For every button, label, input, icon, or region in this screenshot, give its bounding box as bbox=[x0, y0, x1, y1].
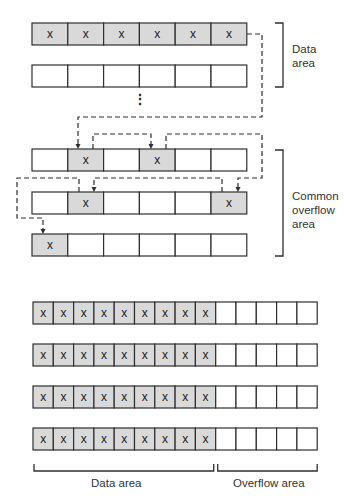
top-row-2-cell bbox=[104, 65, 140, 87]
svg-text:x: x bbox=[162, 348, 168, 362]
bottom-row-2-cell bbox=[216, 344, 236, 366]
svg-text:x: x bbox=[81, 432, 87, 446]
bottom-row-1-cell: x bbox=[175, 302, 195, 324]
svg-text:x: x bbox=[162, 390, 168, 404]
bottom-row-2-cell: x bbox=[135, 344, 155, 366]
top-row-4-cell bbox=[104, 192, 140, 214]
svg-text:x: x bbox=[81, 306, 87, 320]
bottom-row-2-cell bbox=[277, 344, 297, 366]
top-row-1-cell: x bbox=[68, 23, 104, 45]
bottom-row-4-cell bbox=[277, 428, 297, 450]
arrowhead-icon bbox=[149, 144, 154, 149]
bottom-row-3-cell: x bbox=[74, 386, 94, 408]
top-row-2-cell bbox=[139, 65, 175, 87]
svg-text:x: x bbox=[83, 153, 89, 167]
bottom-row-1-cell bbox=[216, 302, 236, 324]
bottom-row-1-cell: x bbox=[33, 302, 53, 324]
bottom-row-3-cell bbox=[216, 386, 236, 408]
svg-text:x: x bbox=[40, 348, 46, 362]
svg-text:x: x bbox=[182, 432, 188, 446]
arrowhead-icon bbox=[41, 229, 46, 234]
top-row-4-cell: x bbox=[211, 192, 247, 214]
bottom-row-3-cell: x bbox=[114, 386, 134, 408]
svg-text:x: x bbox=[119, 27, 125, 41]
arrowhead-icon bbox=[76, 144, 81, 149]
bottom-row-2-cell bbox=[236, 344, 256, 366]
svg-text:x: x bbox=[142, 306, 148, 320]
bottom-row-3-cell bbox=[236, 386, 256, 408]
svg-text:x: x bbox=[226, 196, 232, 210]
bottom-row-4-cell: x bbox=[53, 428, 73, 450]
svg-text:x: x bbox=[47, 238, 53, 252]
bracket-data-area bbox=[275, 23, 283, 87]
top-row-5-cell bbox=[175, 234, 211, 256]
svg-text:x: x bbox=[121, 306, 127, 320]
svg-text:x: x bbox=[142, 348, 148, 362]
svg-text:x: x bbox=[203, 348, 209, 362]
bottom-row-4-cell: x bbox=[195, 428, 215, 450]
svg-text:x: x bbox=[121, 348, 127, 362]
top-row-4-cell bbox=[175, 192, 211, 214]
top-row-3-cell bbox=[104, 149, 140, 171]
svg-text:x: x bbox=[182, 306, 188, 320]
top-row-2-cell bbox=[32, 65, 68, 87]
top-row-2-cell bbox=[68, 65, 104, 87]
bottom-row-2-cell bbox=[256, 344, 276, 366]
top-row-3-cell bbox=[175, 149, 211, 171]
svg-text:x: x bbox=[47, 27, 53, 41]
pointer-chain-3 bbox=[94, 178, 222, 192]
label-line: Data bbox=[292, 42, 316, 56]
pointer-chain-1 bbox=[93, 134, 151, 149]
bottom-row-1-cell: x bbox=[74, 302, 94, 324]
bottom-row-4-cell bbox=[216, 428, 236, 450]
svg-text:x: x bbox=[60, 306, 66, 320]
bottom-row-2-cell: x bbox=[53, 344, 73, 366]
svg-text:x: x bbox=[60, 348, 66, 362]
ellipsis-icon: ⋮ bbox=[133, 91, 147, 107]
svg-text:x: x bbox=[81, 390, 87, 404]
bottom-row-2-cell bbox=[297, 344, 317, 366]
top-row-3-cell: x bbox=[68, 149, 104, 171]
top-row-5-cell: x bbox=[32, 234, 68, 256]
label-line: overflow bbox=[292, 203, 339, 217]
svg-text:x: x bbox=[190, 27, 196, 41]
bottom-row-4-cell: x bbox=[175, 428, 195, 450]
top-row-2-cell bbox=[175, 65, 211, 87]
svg-text:x: x bbox=[101, 390, 107, 404]
svg-text:x: x bbox=[162, 432, 168, 446]
bottom-row-1-cell: x bbox=[94, 302, 114, 324]
svg-text:x: x bbox=[203, 390, 209, 404]
svg-text:x: x bbox=[101, 348, 107, 362]
label-data-area-top: Data area bbox=[292, 42, 316, 70]
bracket-common-overflow-area bbox=[275, 150, 283, 256]
top-row-4-cell bbox=[32, 192, 68, 214]
svg-text:x: x bbox=[162, 306, 168, 320]
bottom-row-3-cell: x bbox=[195, 386, 215, 408]
bottom-row-3-cell: x bbox=[175, 386, 195, 408]
top-row-1-cell: x bbox=[175, 23, 211, 45]
bottom-row-1-cell bbox=[236, 302, 256, 324]
svg-text:x: x bbox=[101, 306, 107, 320]
bottom-row-1-cell: x bbox=[195, 302, 215, 324]
bottom-row-3-cell: x bbox=[53, 386, 73, 408]
label-line: area bbox=[292, 56, 316, 70]
svg-text:x: x bbox=[40, 432, 46, 446]
svg-text:x: x bbox=[83, 27, 89, 41]
bottom-row-3-cell bbox=[297, 386, 317, 408]
bottom-row-2-cell: x bbox=[94, 344, 114, 366]
bottom-row-1-cell: x bbox=[155, 302, 175, 324]
svg-text:x: x bbox=[203, 432, 209, 446]
label-overflow-area-bottom: Overflow area bbox=[233, 476, 305, 490]
label-line: area bbox=[292, 217, 339, 231]
bottom-row-4-cell: x bbox=[135, 428, 155, 450]
svg-text:x: x bbox=[121, 432, 127, 446]
bottom-row-4-cell: x bbox=[94, 428, 114, 450]
svg-text:x: x bbox=[83, 196, 89, 210]
svg-text:x: x bbox=[182, 390, 188, 404]
bottom-row-4-cell: x bbox=[33, 428, 53, 450]
top-row-3-cell: x bbox=[139, 149, 175, 171]
label-data-area-bottom: Data area bbox=[91, 476, 142, 490]
svg-text:x: x bbox=[40, 390, 46, 404]
bottom-row-1-cell: x bbox=[53, 302, 73, 324]
bottom-row-2-cell: x bbox=[195, 344, 215, 366]
